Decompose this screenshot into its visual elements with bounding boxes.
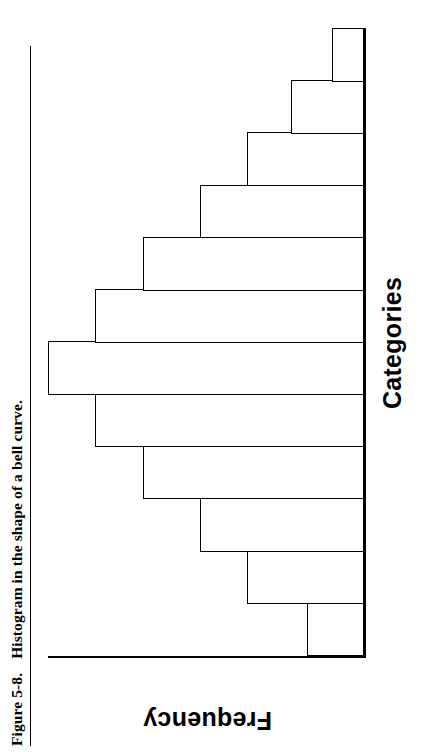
bar <box>143 446 364 500</box>
bar <box>200 498 364 552</box>
y-axis-title: Frequency <box>108 706 308 735</box>
bar <box>200 185 364 239</box>
figure-number: Figure 5-8. <box>8 673 25 746</box>
figure-caption-text: Histogram in the shape of a bell curve. <box>8 400 25 659</box>
bar <box>291 80 364 134</box>
bar <box>95 393 364 447</box>
y-axis-line <box>48 656 366 658</box>
bar-series <box>48 28 364 656</box>
x-axis-line <box>364 28 366 658</box>
bar <box>307 602 364 656</box>
caption-rule <box>30 46 31 746</box>
bar <box>143 237 364 291</box>
bar <box>247 550 364 604</box>
figure-stage: Figure 5-8.Histogram in the shape of a b… <box>0 0 435 752</box>
bar <box>95 289 364 343</box>
plot-area: Frequency Categories <box>48 28 366 658</box>
bar <box>48 341 364 395</box>
bar <box>247 132 364 186</box>
x-axis-title: Categories <box>378 28 407 658</box>
bar <box>332 28 364 82</box>
figure-page: Figure 5-8.Histogram in the shape of a b… <box>0 0 435 752</box>
figure-caption: Figure 5-8.Histogram in the shape of a b… <box>8 46 26 746</box>
histogram-chart: Frequency Categories <box>42 6 427 746</box>
